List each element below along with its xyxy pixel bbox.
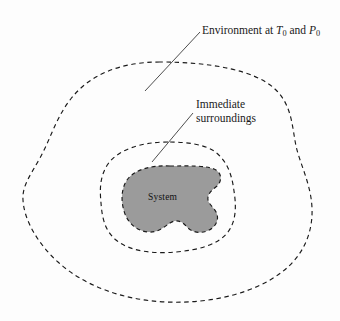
immediate-surroundings-leader-line	[152, 113, 193, 162]
environment-leader-line	[145, 32, 200, 91]
environment-label: Environment at T0 and P0	[202, 24, 320, 39]
system-label: System	[148, 192, 177, 203]
pressure-symbol: P	[309, 24, 316, 36]
environment-label-prefix: Environment at	[202, 24, 276, 36]
immediate-surroundings-label-line1: Immediate	[196, 97, 276, 111]
immediate-surroundings-label-line2: surroundings	[196, 111, 276, 125]
exergy-environment-diagram: Environment at T0 and P0 Immediate surro…	[0, 0, 340, 321]
immediate-surroundings-label: Immediate surroundings	[196, 97, 276, 126]
diagram-canvas	[0, 0, 340, 321]
environment-label-conjunction: and	[287, 24, 309, 36]
pressure-subscript: 0	[316, 29, 320, 38]
